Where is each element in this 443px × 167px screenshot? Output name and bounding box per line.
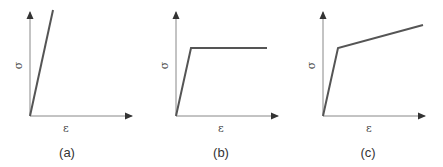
stress-strain-figure xyxy=(0,0,443,167)
y-axis-label: σ xyxy=(159,62,170,70)
x-axis-label: ε xyxy=(366,123,372,134)
stress-strain-curve xyxy=(30,10,53,116)
x-axis-label: ε xyxy=(63,123,69,134)
panel-b xyxy=(176,12,278,116)
panel-a xyxy=(30,10,132,116)
panel-caption: (b) xyxy=(213,146,229,159)
stress-strain-curve xyxy=(323,25,423,116)
panel-caption: (a) xyxy=(59,146,75,159)
y-axis-label: σ xyxy=(13,62,24,70)
y-axis-label: σ xyxy=(306,62,317,70)
x-axis-label: ε xyxy=(218,123,224,134)
panel-caption: (c) xyxy=(360,146,375,159)
panel-c xyxy=(323,12,425,116)
stress-strain-curve xyxy=(176,48,267,116)
